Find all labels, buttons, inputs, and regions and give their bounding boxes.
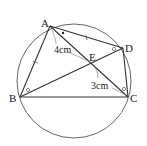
label-C: C	[130, 92, 137, 104]
label-D: D	[125, 42, 133, 54]
angle-mark-C	[122, 87, 125, 90]
leader-AE	[52, 30, 56, 44]
measurement-AE: 4cm	[54, 44, 71, 55]
angle-mark-B	[26, 88, 29, 91]
leader-AE-end	[68, 52, 90, 62]
measurement-EC: 3cm	[91, 80, 108, 91]
label-A: A	[41, 17, 49, 29]
angle-mark-A-dot	[62, 32, 64, 34]
label-B: B	[9, 92, 16, 104]
geometry-diagram: A B C D E 4cm 3cm	[0, 0, 147, 146]
circumcircle	[17, 24, 131, 138]
tick-mark-AD	[86, 35, 87, 40]
angle-mark-D	[112, 47, 115, 50]
label-E: E	[89, 51, 96, 63]
